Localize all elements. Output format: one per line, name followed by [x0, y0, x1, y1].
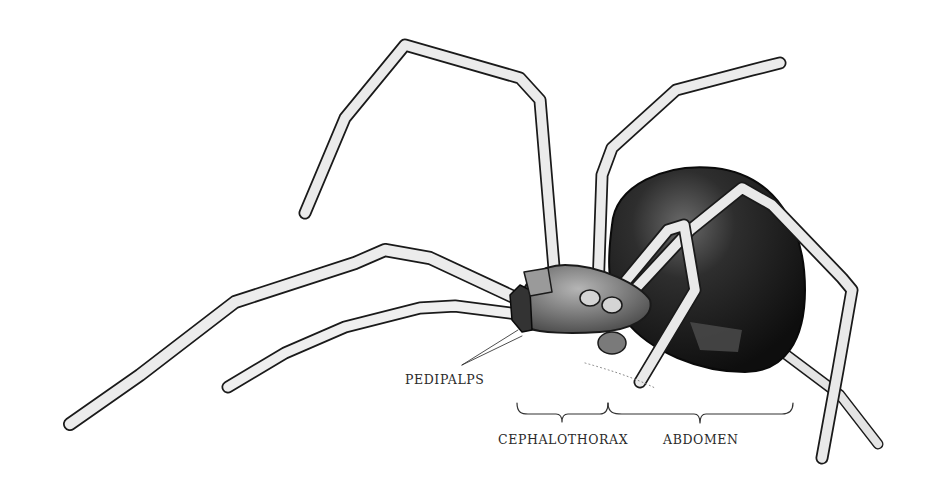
pedipalps-label: PEDIPALPS [405, 372, 484, 387]
cephalothorax-brace [517, 403, 608, 422]
leg-1-left [305, 45, 555, 280]
spider-illustration: PEDIPALPS CEPHALOTHORAX ABDOMEN [0, 0, 933, 489]
abdomen-brace [608, 403, 793, 423]
pedipalps-leader [462, 336, 522, 365]
coxa [580, 290, 600, 306]
cephalothorax-label: CEPHALOTHORAX [498, 432, 628, 447]
abdomen-label: ABDOMEN [663, 432, 739, 447]
coxa [602, 297, 622, 313]
pedipalps-leader [462, 330, 518, 365]
leg-2-left [70, 250, 520, 424]
spider-drawing [0, 0, 933, 489]
spinneret [598, 332, 626, 354]
